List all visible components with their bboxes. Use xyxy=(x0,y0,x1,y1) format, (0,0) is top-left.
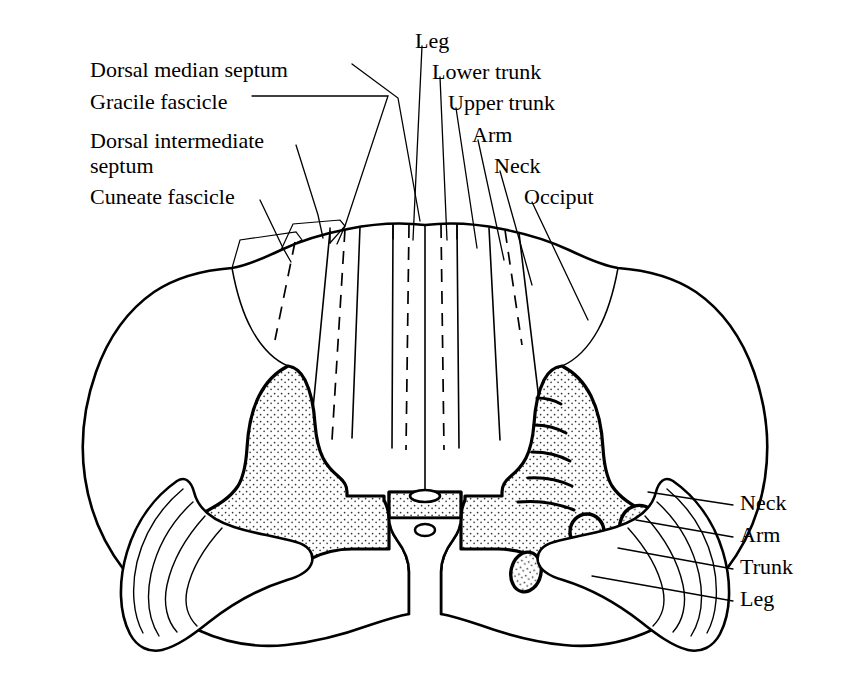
leader-dorsal-median-septum xyxy=(352,64,420,221)
label-lower-trunk: Lower trunk xyxy=(432,59,541,84)
fan-line-left-3 xyxy=(392,225,393,448)
label-trunk-lateral: Trunk xyxy=(740,554,793,579)
label-arm-dorsal: Arm xyxy=(472,122,512,147)
leader-leg-dorsal xyxy=(413,46,422,240)
leader-lower-trunk xyxy=(440,77,447,240)
label-occiput: Occiput xyxy=(524,184,594,209)
label-dorsal-intermediate-septum-1: Dorsal intermediate xyxy=(90,128,264,153)
central-canal-region xyxy=(389,490,461,518)
ventral-fissure-vessel xyxy=(415,524,435,536)
label-upper-trunk: Upper trunk xyxy=(448,90,555,115)
anatomical-figure: Dorsal median septum Gracile fascicle Do… xyxy=(0,0,851,698)
label-arm-lateral: Arm xyxy=(740,522,780,547)
central-canal xyxy=(410,490,440,502)
label-neck-lateral: Neck xyxy=(740,490,786,515)
label-cuneate-fascicle: Cuneate fascicle xyxy=(90,184,235,209)
label-dorsal-intermediate-septum-2: septum xyxy=(90,153,154,178)
label-dorsal-median-septum: Dorsal median septum xyxy=(90,57,288,82)
label-neck-dorsal: Neck xyxy=(494,153,540,178)
label-gracile-fascicle: Gracile fascicle xyxy=(90,89,227,114)
label-leg-dorsal: Leg xyxy=(415,28,449,53)
label-leg-lateral: Leg xyxy=(740,586,774,611)
